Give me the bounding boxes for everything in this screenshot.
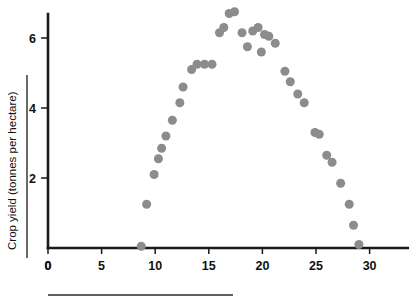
x-tick-label: 25 <box>309 259 323 273</box>
data-point <box>349 221 358 230</box>
data-point <box>286 77 295 86</box>
data-point <box>293 90 302 99</box>
data-point <box>257 48 266 57</box>
data-point <box>315 130 324 139</box>
data-point <box>230 7 239 16</box>
y-tick-label: 2 <box>29 172 36 186</box>
data-point <box>354 240 363 249</box>
x-tick-group: 051015202530 <box>45 248 377 273</box>
plot-canvas: 051015202530 0246 Crop yield (tonnes per… <box>0 0 409 304</box>
data-point <box>300 98 309 107</box>
x-tick-label: 20 <box>255 259 269 273</box>
data-point <box>161 132 170 141</box>
y-tick-label: 0 <box>45 259 52 273</box>
y-axis-title: Crop yield (tonnes per hectare) <box>6 91 18 250</box>
data-point <box>254 23 263 32</box>
data-point <box>345 200 354 209</box>
x-tick-label: 10 <box>148 259 162 273</box>
data-point <box>271 39 280 48</box>
data-point <box>208 60 217 69</box>
data-point <box>243 42 252 51</box>
data-point <box>142 200 151 209</box>
data-point <box>264 32 273 41</box>
x-tick-label: 5 <box>98 259 105 273</box>
data-point <box>238 28 247 37</box>
data-point <box>179 83 188 92</box>
data-point <box>150 170 159 179</box>
data-point <box>137 242 146 251</box>
y-tick-label: 6 <box>29 32 36 46</box>
data-point <box>154 154 163 163</box>
data-point <box>328 158 337 167</box>
x-tick-label: 15 <box>202 259 216 273</box>
data-point <box>168 116 177 125</box>
y-tick-label: 4 <box>29 102 36 116</box>
axis-group <box>48 14 409 248</box>
data-point <box>336 179 345 188</box>
data-point <box>157 144 166 153</box>
x-tick-label: 30 <box>363 259 377 273</box>
data-point <box>219 23 228 32</box>
data-point <box>280 67 289 76</box>
scatter-chart-figure: 051015202530 0246 Crop yield (tonnes per… <box>0 0 409 304</box>
data-point <box>175 98 184 107</box>
data-points-group <box>137 7 364 251</box>
